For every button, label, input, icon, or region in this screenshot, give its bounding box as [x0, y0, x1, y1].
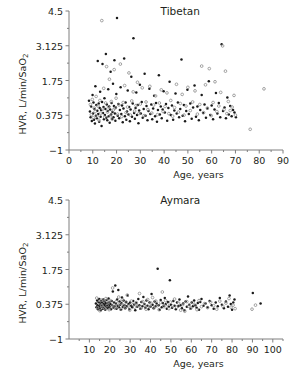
data-point-open — [105, 65, 108, 68]
data-point-filled — [208, 80, 211, 83]
data-point-open — [166, 92, 169, 95]
data-point-filled — [109, 70, 112, 73]
data-point-filled — [174, 92, 177, 95]
data-point-open — [115, 97, 118, 100]
data-point-filled — [124, 115, 127, 118]
data-point-filled — [129, 108, 132, 111]
data-point-open — [97, 105, 100, 108]
x-tick-label: 0 — [66, 155, 72, 166]
data-point-filled — [160, 117, 163, 120]
data-point-open — [254, 304, 257, 307]
data-point-filled — [196, 105, 199, 108]
data-point-filled — [94, 122, 97, 125]
y-tick-label: 4.5 — [3, 195, 63, 206]
data-point-filled — [178, 298, 181, 301]
data-point-filled — [117, 289, 120, 292]
data-point-filled — [171, 104, 174, 107]
data-point-filled — [155, 102, 158, 105]
y-tick-label: 4.5 — [3, 6, 63, 17]
data-point-filled — [168, 81, 171, 84]
data-point-open — [173, 298, 176, 301]
data-point-open — [95, 95, 98, 98]
panel-tibetan: HVR, L/min/SaO2 Tibetan −10.3751.753.125… — [0, 0, 293, 188]
data-point-filled — [203, 103, 206, 106]
data-point-open — [234, 307, 237, 310]
x-tick-label: 10 — [83, 344, 95, 355]
data-point-filled — [199, 109, 202, 112]
data-point-filled — [108, 121, 111, 124]
data-point-filled — [172, 118, 175, 121]
data-point-open — [181, 93, 184, 96]
x-tick-label: 40 — [158, 155, 170, 166]
data-point-open — [228, 297, 231, 300]
y-tick-label: 1.75 — [3, 75, 63, 86]
data-point-open — [229, 109, 232, 112]
scatter-plot-tibetan — [0, 0, 293, 188]
data-point-filled — [109, 108, 112, 111]
data-point-filled — [215, 92, 218, 95]
data-point-open — [94, 110, 97, 113]
data-point-filled — [156, 267, 159, 270]
x-tick-label: 30 — [124, 344, 136, 355]
x-tick-label: 70 — [206, 344, 218, 355]
data-point-open — [187, 86, 190, 89]
data-point-open — [141, 86, 144, 89]
data-point-open — [136, 81, 139, 84]
data-point-open — [139, 103, 142, 106]
data-point-filled — [193, 84, 196, 87]
data-point-filled — [92, 101, 95, 104]
data-point-open — [161, 291, 164, 294]
data-point-filled — [156, 120, 159, 123]
data-point-filled — [187, 295, 190, 298]
data-point-open — [214, 80, 217, 83]
data-point-filled — [114, 119, 117, 122]
data-point-open — [168, 112, 171, 115]
data-point-filled — [214, 301, 217, 304]
data-point-filled — [184, 120, 187, 123]
data-point-open — [95, 297, 98, 300]
x-tick-label: 40 — [144, 344, 156, 355]
data-point-open — [200, 65, 203, 68]
data-point-filled — [166, 119, 169, 122]
data-point-open — [132, 91, 135, 94]
data-point-filled — [188, 113, 191, 116]
data-point-open — [108, 78, 111, 81]
data-point-open — [177, 111, 180, 114]
data-point-open — [92, 116, 95, 119]
data-point-filled — [142, 296, 145, 299]
data-point-open — [179, 309, 182, 312]
data-point-filled — [107, 88, 110, 91]
data-point-filled — [151, 118, 154, 121]
data-point-open — [133, 306, 136, 309]
data-point-open — [249, 128, 252, 131]
data-point-filled — [134, 117, 137, 120]
data-point-open — [117, 296, 120, 299]
data-point-filled — [145, 105, 148, 108]
data-point-filled — [232, 109, 235, 112]
data-point-filled — [135, 91, 138, 94]
data-point-filled — [100, 125, 103, 128]
data-point-filled — [137, 298, 140, 301]
data-point-filled — [259, 302, 262, 305]
figure-hvr-by-age: HVR, L/min/SaO2 Tibetan −10.3751.753.125… — [0, 0, 293, 377]
data-point-filled — [218, 102, 221, 105]
data-point-open — [175, 83, 178, 86]
data-point-open — [233, 94, 236, 97]
data-point-filled — [114, 284, 117, 287]
data-point-filled — [210, 104, 213, 107]
data-point-open — [224, 70, 227, 73]
data-point-filled — [125, 118, 128, 121]
data-point-filled — [213, 108, 216, 111]
data-point-open — [138, 292, 141, 295]
data-point-open — [196, 113, 199, 116]
data-point-filled — [157, 109, 160, 112]
data-point-filled — [138, 109, 141, 112]
data-point-filled — [105, 53, 108, 56]
data-point-open — [198, 103, 201, 106]
x-tick-label: 50 — [182, 155, 194, 166]
y-tick-label: 1.75 — [3, 264, 63, 275]
data-point-filled — [212, 118, 215, 121]
data-point-open — [212, 101, 215, 104]
data-point-open — [198, 299, 201, 302]
data-point-filled — [123, 57, 126, 60]
